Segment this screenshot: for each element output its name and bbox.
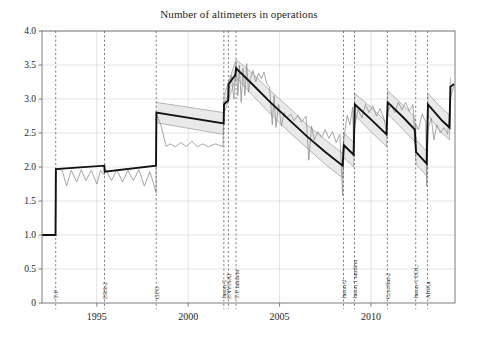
xtick-label: 2005: [270, 311, 290, 322]
event-label-envisat: ENVISAT: [225, 272, 232, 299]
xtick-label: 2010: [361, 311, 381, 322]
event-label-t-p-tandem: T/P tandem: [233, 270, 240, 299]
xtick-label: 1995: [87, 311, 107, 322]
ytick-label: 2.0: [24, 162, 36, 172]
event-label-gfo: GFO: [153, 286, 160, 299]
event-label-jason-1-tandem: Jason 1 tandem: [351, 260, 358, 299]
ytick-label: 1.0: [24, 230, 36, 240]
ytick-label: 2.5: [24, 128, 36, 138]
ytick-label: 3.5: [24, 60, 36, 70]
ytick-label: 0.5: [24, 264, 36, 274]
event-label-jason-1-eol: Jason-1 EOL: [412, 265, 419, 299]
event-label-ers-2: ERS-2: [101, 282, 108, 299]
chart-plot-area: T/PERS-2GFOJason-1ENVISATT/P tandemJason…: [0, 0, 478, 340]
event-label-altika: AltiKa: [424, 281, 431, 299]
event-label-jason-2: Jason-2: [340, 279, 347, 299]
event-label-cryosat-2: CryoSat-2: [384, 273, 391, 299]
ytick-label: 0: [31, 298, 36, 308]
chart-figure: Number of altimeters in operations T/PER…: [0, 0, 478, 340]
xtick-label: 2000: [178, 311, 198, 322]
ytick-label: 1.5: [24, 196, 36, 206]
ytick-label: 4.0: [24, 26, 36, 36]
event-label-t-p: T/P: [52, 289, 59, 299]
ytick-label: 3.0: [24, 94, 36, 104]
